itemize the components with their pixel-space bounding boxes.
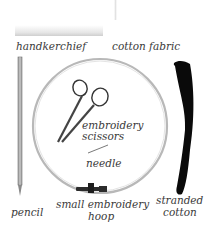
handkerchief-label: handkerchief bbox=[16, 41, 86, 52]
hoop-label-line2: hoop bbox=[88, 211, 114, 222]
pencil-label: pencil bbox=[11, 207, 43, 218]
cotton-fabric-label: cotton fabric bbox=[112, 41, 180, 52]
scissors-label-line2: scissors bbox=[82, 131, 124, 142]
thread-label-line2: cotton bbox=[163, 207, 197, 218]
hoop-label-line1: small embroidery bbox=[56, 199, 149, 210]
needle-icon bbox=[88, 145, 108, 153]
stranded-cotton-icon bbox=[174, 61, 194, 195]
needle-label: needle bbox=[86, 158, 121, 169]
pencil-icon bbox=[18, 57, 22, 196]
thread-label-line1: stranded bbox=[156, 195, 203, 206]
